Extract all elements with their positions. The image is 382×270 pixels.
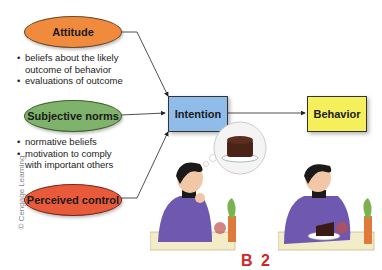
bullet: normative beliefs — [16, 136, 113, 148]
copyright-credit: © Cengage Learning — [17, 160, 26, 230]
woman-eating-illustration — [278, 164, 378, 252]
attitude-label: Attitude — [52, 26, 94, 38]
figure-label: B 2 — [241, 252, 272, 270]
bullet: beliefs about the likely — [16, 52, 123, 64]
bullet-continuation: outcome of behavior — [16, 64, 123, 76]
bullet: motivation to comply — [16, 148, 113, 160]
behavior-box: Behavior — [307, 96, 367, 132]
subjective-norms-bullets: normative beliefs motivation to comply w… — [16, 136, 113, 171]
bullet: evaluations of outcome — [16, 75, 123, 87]
perceived-control-node: Perceived control — [24, 184, 122, 216]
bullet-continuation: with important others — [16, 159, 113, 171]
attitude-node: Attitude — [24, 16, 122, 48]
perceived-control-label: Perceived control — [27, 194, 119, 206]
subjective-norms-node: Subjective norms — [24, 100, 122, 132]
behavior-label: Behavior — [313, 108, 360, 120]
subjective-norms-label: Subjective norms — [27, 110, 119, 122]
attitude-bullets: beliefs about the likely outcome of beha… — [16, 52, 123, 87]
woman-thinking-illustration — [150, 162, 240, 252]
